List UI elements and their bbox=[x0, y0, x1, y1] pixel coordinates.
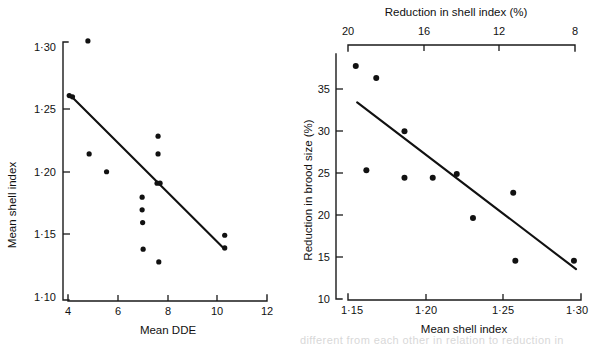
right-scatter-panel: Reduction in shell index (%) 20 16 12 8 … bbox=[296, 0, 592, 350]
left-y-tick-label: 1·30 bbox=[34, 41, 56, 53]
data-point bbox=[454, 171, 460, 177]
left-x-tick-label: 6 bbox=[115, 305, 121, 317]
data-point bbox=[222, 233, 227, 238]
right-y-tick-label: 25 bbox=[318, 167, 330, 179]
right-x-tick-label: 1·20 bbox=[415, 304, 437, 316]
data-point bbox=[87, 151, 92, 156]
right-y-tick-label: 35 bbox=[318, 83, 330, 95]
right-fit-line-segment bbox=[357, 102, 576, 269]
left-data-points bbox=[67, 38, 228, 264]
data-point bbox=[155, 134, 160, 139]
right-top-tick-label: 12 bbox=[493, 25, 505, 37]
left-y-tick-label: 1·10 bbox=[34, 291, 56, 303]
right-y-tick-label: 10 bbox=[318, 293, 330, 305]
left-scatter-panel: Mean shell index 1·30 1·25 1·20 1·15 1·1… bbox=[0, 0, 296, 350]
left-y-axis-line bbox=[63, 42, 69, 300]
data-point bbox=[104, 169, 109, 174]
right-top-tick-label: 8 bbox=[572, 25, 578, 37]
data-point bbox=[140, 195, 145, 200]
data-point bbox=[512, 258, 518, 264]
right-top-ticks bbox=[424, 45, 499, 51]
data-point bbox=[85, 38, 90, 43]
left-fit-line-segment bbox=[70, 96, 224, 250]
left-regression-line bbox=[70, 96, 224, 250]
right-y-tick-label: 20 bbox=[318, 209, 330, 221]
left-plot-svg: Mean shell index 1·30 1·25 1·20 1·15 1·1… bbox=[0, 0, 296, 350]
left-x-tick-label: 12 bbox=[261, 305, 273, 317]
data-point bbox=[571, 258, 577, 264]
right-x-tick-label: 1·25 bbox=[492, 304, 514, 316]
cropped-caption-text: different from each other in relation to… bbox=[300, 336, 564, 346]
figure-container: Mean shell index 1·30 1·25 1·20 1·15 1·1… bbox=[0, 0, 592, 350]
right-data-points bbox=[353, 63, 577, 264]
right-x-ticks bbox=[426, 294, 503, 300]
data-point bbox=[401, 175, 407, 181]
right-regression-line bbox=[357, 102, 576, 269]
right-top-tick-label: 16 bbox=[418, 25, 430, 37]
data-point bbox=[222, 245, 227, 250]
right-top-axis-line bbox=[348, 45, 575, 51]
right-y-ticks bbox=[336, 89, 343, 257]
data-point bbox=[140, 207, 145, 212]
right-plot-svg: Reduction in shell index (%) 20 16 12 8 … bbox=[296, 0, 592, 350]
data-point bbox=[430, 175, 436, 181]
cropped-caption: different from each other in relation to… bbox=[0, 336, 592, 350]
data-point bbox=[353, 63, 359, 69]
right-y-axis-title: Reduction in brood size (%) bbox=[302, 119, 314, 260]
left-x-tick-label: 8 bbox=[165, 305, 171, 317]
data-point bbox=[155, 151, 160, 156]
left-x-axis-title: Mean DDE bbox=[140, 324, 197, 336]
data-point bbox=[140, 220, 145, 225]
data-point bbox=[401, 128, 407, 134]
data-point bbox=[156, 259, 161, 264]
data-point bbox=[70, 94, 75, 99]
data-point bbox=[363, 167, 369, 173]
left-x-ticks bbox=[118, 295, 217, 301]
left-x-tick-label: 10 bbox=[211, 305, 223, 317]
data-point bbox=[373, 75, 379, 81]
left-y-tick-label: 1·15 bbox=[34, 228, 56, 240]
left-y-axis-title: Mean shell index bbox=[6, 162, 18, 249]
data-point bbox=[157, 181, 162, 186]
right-y-axis-line bbox=[336, 54, 342, 299]
right-top-axis-title: Reduction in shell index (%) bbox=[385, 6, 528, 18]
right-x-tick-label: 1·30 bbox=[566, 304, 588, 316]
data-point bbox=[510, 190, 516, 196]
right-x-axis-title: Mean shell index bbox=[421, 323, 508, 335]
left-x-tick-label: 4 bbox=[65, 305, 71, 317]
data-point bbox=[470, 215, 476, 221]
right-x-tick-label: 1·15 bbox=[341, 304, 363, 316]
data-point bbox=[141, 247, 146, 252]
right-y-tick-label: 30 bbox=[318, 125, 330, 137]
left-y-ticks bbox=[63, 109, 70, 234]
left-y-tick-label: 1·20 bbox=[34, 166, 56, 178]
right-y-tick-label: 15 bbox=[318, 251, 330, 263]
right-top-tick-label: 20 bbox=[342, 25, 354, 37]
left-y-tick-label: 1·25 bbox=[34, 103, 56, 115]
right-x-axis-line bbox=[348, 294, 581, 300]
